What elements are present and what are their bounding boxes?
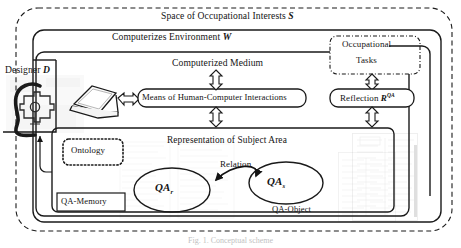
ontology-label[interactable]: Ontology [71, 146, 105, 155]
arrow-laptop-to-means [118, 93, 139, 105]
occupational-tasks-line2: Tasks [356, 56, 377, 65]
qa-s-label[interactable]: QAs [267, 176, 285, 189]
head-gear-icon [16, 84, 54, 135]
medium-title: Computerized Medium [172, 58, 263, 68]
space-title: Space of Occupational Interests S [161, 11, 294, 21]
means-of-hci-label[interactable]: Means of Human-Computer Interactions [142, 93, 287, 102]
environment-title: Computerizes Environment W [112, 32, 231, 42]
arrow-tasks-to-reflection [366, 74, 378, 90]
laptop-icon [70, 86, 118, 118]
designer-label: Designer D [5, 65, 50, 75]
designer-feedback-connector [37, 136, 52, 172]
reflection-label[interactable]: Reflection RQA [340, 93, 395, 103]
qa-object-caption: QA-Object [272, 205, 311, 214]
computerized-medium-frame [36, 52, 409, 216]
qa-s-ellipse[interactable] [249, 162, 323, 204]
figure-canvas: Space of Occupational Interests S Comput… [0, 0, 461, 248]
qa-memory-label[interactable]: QA-Memory [61, 197, 107, 206]
arrow-reflection-to-subject-area [366, 107, 378, 127]
subject-area-title: Representation of Subject Area [167, 136, 287, 146]
arrow-medium-to-means [210, 70, 222, 90]
relation-label: Relation [220, 160, 251, 169]
figure-caption: Fig. 1. Conceptual scheme [0, 236, 461, 245]
occupational-tasks-line1: Occupational [342, 40, 391, 49]
qa-r-label[interactable]: QAr [155, 182, 173, 195]
arrow-means-to-subject-area [210, 107, 222, 127]
